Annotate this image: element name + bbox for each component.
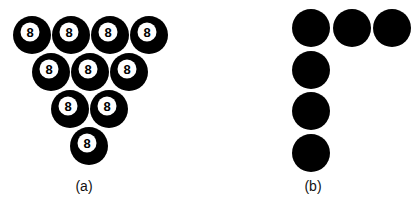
black-circle — [292, 9, 330, 47]
eight-ball: 8 — [51, 90, 89, 128]
eight-ball: 8 — [13, 16, 51, 54]
eight-ball: 8 — [71, 53, 109, 91]
figure-canvas: 8888888888 — [0, 0, 420, 204]
panel-a-label: (a) — [75, 178, 92, 194]
ball-number: 8 — [45, 62, 52, 77]
ball-number: 8 — [84, 62, 91, 77]
eight-ball: 8 — [110, 53, 148, 91]
eight-ball: 8 — [90, 90, 128, 128]
ball-number: 8 — [26, 25, 33, 40]
ball-number: 8 — [143, 25, 150, 40]
ball-number: 8 — [83, 136, 90, 151]
ball-number: 8 — [65, 25, 72, 40]
panel-a-eight-ball-triangle: 8888888888 — [13, 16, 168, 165]
eight-ball: 8 — [70, 127, 108, 165]
eight-ball: 8 — [91, 16, 129, 54]
ball-number: 8 — [64, 99, 71, 114]
ball-number: 8 — [123, 62, 130, 77]
eight-ball: 8 — [32, 53, 70, 91]
eight-ball: 8 — [52, 16, 90, 54]
ball-number: 8 — [103, 99, 110, 114]
black-circle — [333, 9, 371, 47]
black-circle — [373, 9, 411, 47]
black-circle — [292, 51, 330, 89]
black-circle — [292, 92, 330, 130]
black-circle — [292, 134, 330, 172]
eight-ball: 8 — [130, 16, 168, 54]
panel-b-gamma-shape — [292, 9, 411, 172]
panel-b-label: (b) — [304, 178, 321, 194]
ball-number: 8 — [104, 25, 111, 40]
